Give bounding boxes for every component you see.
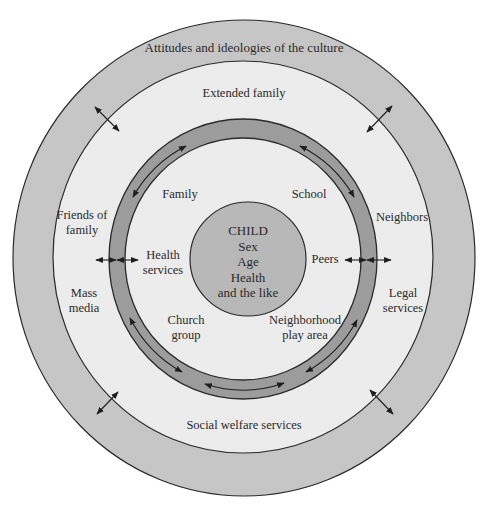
mass-media-label: Mass media <box>69 286 100 316</box>
extended-family-label: Extended family <box>203 86 286 101</box>
culture-label: Attitudes and ideologies of the culture <box>145 40 344 55</box>
friends-line-2: family <box>56 223 107 238</box>
family-label: Family <box>162 187 197 202</box>
mass-media-line-2: media <box>69 301 100 316</box>
mass-media-line-1: Mass <box>69 286 100 301</box>
church-group-label: Church group <box>168 313 205 343</box>
child-label: CHILD Sex Age Health and the like <box>218 223 279 301</box>
church-line-1: Church <box>168 313 205 328</box>
peers-label: Peers <box>311 252 338 267</box>
legal-line-2: services <box>383 301 423 316</box>
legal-services-label: Legal services <box>383 286 423 316</box>
neighborhood-line-1: Neighborhood <box>269 313 341 328</box>
child-sex: Sex <box>218 239 279 255</box>
health-line-1: Health <box>143 248 183 263</box>
neighborhood-play-area-label: Neighborhood play area <box>269 313 341 343</box>
church-line-2: group <box>168 328 205 343</box>
friends-line-1: Friends of <box>56 208 107 223</box>
child-etc: and the like <box>218 285 279 301</box>
child-title: CHILD <box>218 223 279 239</box>
social-welfare-label: Social welfare services <box>186 418 301 433</box>
child-health: Health <box>218 270 279 286</box>
school-label: School <box>292 187 327 202</box>
health-line-2: services <box>143 263 183 278</box>
neighborhood-line-2: play area <box>269 328 341 343</box>
friends-of-family-label: Friends of family <box>56 208 107 238</box>
neighbors-label: Neighbors <box>376 210 428 225</box>
legal-line-1: Legal <box>383 286 423 301</box>
child-age: Age <box>218 254 279 270</box>
health-services-label: Health services <box>143 248 183 278</box>
